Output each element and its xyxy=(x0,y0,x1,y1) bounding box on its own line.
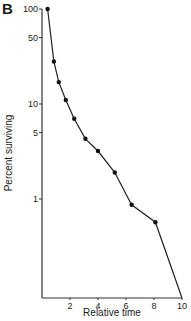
x-tick-label: 8 xyxy=(151,301,156,311)
data-point-marker xyxy=(153,220,157,224)
data-point-marker xyxy=(83,137,87,141)
data-point-marker xyxy=(57,80,61,84)
data-point-marker xyxy=(96,149,100,153)
plot-area xyxy=(45,7,182,298)
data-point-marker xyxy=(45,7,49,11)
x-tick-label: 10 xyxy=(177,301,187,311)
axes: 100501051246810 xyxy=(23,4,187,311)
data-point-marker xyxy=(72,117,76,121)
data-point-marker xyxy=(113,170,117,174)
x-axis-title: Relative time xyxy=(83,307,141,318)
data-point-marker xyxy=(129,203,133,207)
y-tick-label: 50 xyxy=(28,33,38,43)
y-tick-label: 100 xyxy=(23,4,38,14)
y-tick-label: 1 xyxy=(33,194,38,204)
survival-chart: 100501051246810 Relative time Percent su… xyxy=(0,0,191,321)
data-point-marker xyxy=(52,59,56,63)
data-point-marker xyxy=(64,98,68,102)
series-line xyxy=(48,9,182,298)
y-axis-title: Percent surviving xyxy=(3,115,14,192)
y-tick-label: 5 xyxy=(33,128,38,138)
y-tick-label: 10 xyxy=(28,99,38,109)
x-tick-label: 2 xyxy=(67,301,72,311)
